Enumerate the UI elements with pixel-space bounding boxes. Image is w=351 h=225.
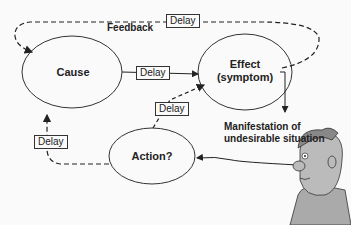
manifestation-line1: Manifestation of bbox=[224, 121, 325, 133]
action-node-label: Action? bbox=[127, 150, 177, 162]
effect-node-label: Effect (symptom) bbox=[205, 58, 285, 84]
delay-box-action-cause: Delay bbox=[34, 135, 68, 149]
manifestation-label: Manifestation of undesirable situation bbox=[224, 121, 325, 145]
effect-label-line1: Effect bbox=[205, 58, 285, 71]
effect-label-line2: (symptom) bbox=[205, 71, 285, 84]
diagram-canvas: Cause Effect (symptom) Action? Feedback … bbox=[0, 0, 351, 225]
delay-box-action-effect: Delay bbox=[155, 102, 189, 116]
observer-to-action-arrow bbox=[197, 157, 298, 165]
manifestation-line2: undesirable situation bbox=[224, 133, 325, 145]
feedback-label: Feedback bbox=[107, 22, 153, 33]
cause-node-label: Cause bbox=[48, 66, 98, 78]
delay-box-cause-effect: Delay bbox=[136, 66, 170, 80]
delay-box-feedback: Delay bbox=[166, 14, 200, 28]
